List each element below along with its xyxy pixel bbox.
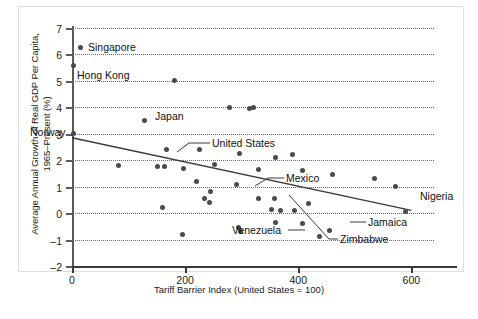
y-tick-label: 2 bbox=[56, 155, 62, 167]
data-point bbox=[160, 205, 165, 210]
data-point bbox=[202, 196, 207, 201]
data-point bbox=[292, 208, 297, 213]
data-point bbox=[269, 207, 274, 212]
data-point bbox=[234, 182, 239, 187]
gridline bbox=[72, 81, 434, 82]
x-tick bbox=[298, 266, 300, 273]
x-tick bbox=[185, 266, 187, 273]
data-point bbox=[208, 189, 213, 194]
data-point bbox=[256, 167, 261, 172]
y-tick-label: 0 bbox=[56, 208, 62, 220]
y-tick: –1 bbox=[66, 240, 73, 242]
data-point-hong-kong bbox=[71, 63, 76, 68]
annotation-singapore: Singapore bbox=[88, 41, 136, 53]
data-point bbox=[300, 221, 305, 226]
data-point-norway bbox=[71, 131, 76, 136]
x-tick-label: 600 bbox=[403, 274, 421, 286]
data-point bbox=[256, 196, 261, 201]
y-tick: 2 bbox=[66, 160, 73, 162]
y-tick: 5 bbox=[66, 81, 73, 83]
data-point bbox=[306, 201, 311, 206]
annotation-hong-kong: Hong Kong bbox=[77, 69, 130, 81]
gridline bbox=[72, 28, 434, 29]
data-point bbox=[372, 176, 377, 181]
annotation-mexico: Mexico bbox=[286, 172, 319, 184]
data-point bbox=[330, 172, 335, 177]
annotation-nigeria: Nigeria bbox=[420, 190, 453, 202]
data-point bbox=[162, 164, 167, 169]
data-point-jamaica bbox=[327, 228, 332, 233]
x-tick-label: 200 bbox=[176, 274, 194, 286]
y-tick-label: –2 bbox=[50, 261, 62, 273]
data-point bbox=[278, 208, 283, 213]
y-tick-label: 5 bbox=[56, 76, 62, 88]
gridline bbox=[72, 54, 434, 55]
annotation-venezuela: Venezuela bbox=[232, 224, 281, 236]
gridline bbox=[72, 160, 434, 161]
data-point bbox=[227, 105, 232, 110]
y-tick-label: –1 bbox=[50, 235, 62, 247]
data-point bbox=[194, 179, 199, 184]
x-tick-label: 400 bbox=[289, 274, 307, 286]
y-tick-label: 6 bbox=[56, 49, 62, 61]
data-point bbox=[172, 78, 177, 83]
y-tick: 1 bbox=[66, 187, 73, 189]
x-tick-label: 0 bbox=[69, 274, 75, 286]
annotation-zimbabwe: Zimbabwe bbox=[340, 233, 388, 245]
x-tick bbox=[72, 266, 74, 273]
x-tick bbox=[411, 266, 413, 273]
data-point-singapore bbox=[78, 45, 83, 50]
data-point bbox=[290, 152, 295, 157]
data-point bbox=[116, 163, 121, 168]
data-point bbox=[180, 232, 185, 237]
data-point bbox=[197, 147, 202, 152]
y-tick: 7 bbox=[66, 28, 73, 30]
y-tick-label: 7 bbox=[56, 23, 62, 35]
x-axis-line bbox=[71, 266, 457, 268]
annotation-norway: Norway bbox=[30, 126, 66, 138]
data-point-japan bbox=[142, 118, 147, 123]
y-tick-label: 4 bbox=[56, 102, 62, 114]
y-tick: 4 bbox=[66, 107, 73, 109]
data-point bbox=[393, 184, 398, 189]
data-point-zimbabwe bbox=[272, 196, 277, 201]
data-point bbox=[251, 105, 256, 110]
gridline bbox=[72, 134, 434, 135]
scatter-chart-figure: Average Annual Growth of Real GDP Per Ca… bbox=[0, 0, 478, 319]
gridline bbox=[72, 213, 434, 214]
gridline bbox=[72, 187, 434, 188]
data-point bbox=[207, 200, 212, 205]
annotation-japan: Japan bbox=[155, 110, 184, 122]
data-point bbox=[212, 162, 217, 167]
data-point-united-states bbox=[164, 147, 169, 152]
annotation-united-states: United States bbox=[212, 137, 275, 149]
data-point bbox=[181, 166, 186, 171]
y-tick-label: 1 bbox=[56, 182, 62, 194]
data-point-mexico bbox=[237, 151, 242, 156]
y-tick: 6 bbox=[66, 54, 73, 56]
annotation-jamaica: Jamaica bbox=[368, 216, 407, 228]
data-point bbox=[155, 164, 160, 169]
y-tick: 0 bbox=[66, 213, 73, 215]
